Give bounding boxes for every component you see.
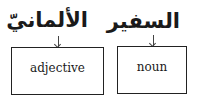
box-label: adjective: [30, 61, 85, 75]
arrow-down-icon: [58, 36, 59, 47]
arrow-down-icon: [153, 35, 154, 46]
arabic-word-adjective: الألمانيّ: [28, 10, 88, 31]
label-box-noun: noun: [117, 46, 187, 94]
box-label: noun: [137, 60, 167, 74]
arabic-word-noun: السفير: [120, 11, 180, 32]
label-box-adjective: adjective: [11, 47, 104, 95]
